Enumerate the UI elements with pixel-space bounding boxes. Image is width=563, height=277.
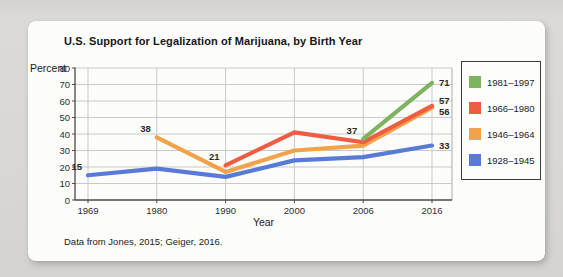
y-tick-label: 20 bbox=[59, 162, 70, 173]
y-axis-title: Percent bbox=[30, 62, 66, 74]
y-tick-label: 40 bbox=[59, 129, 70, 140]
line-chart: 0102030405060708019691980199020002006201… bbox=[28, 56, 458, 228]
data-label: 21 bbox=[209, 151, 220, 162]
chart-title: U.S. Support for Legalization of Marijua… bbox=[64, 35, 362, 47]
legend-label: 1981–1997 bbox=[487, 77, 535, 88]
x-tick-label: 1990 bbox=[215, 205, 236, 216]
y-tick-label: 30 bbox=[59, 145, 70, 156]
series-line-1966–1980 bbox=[226, 106, 432, 165]
legend-item: 1981–1997 bbox=[469, 69, 534, 95]
scanned-page: { "window": { "page_background": "#d8d7d… bbox=[0, 0, 563, 277]
legend-label: 1928–1945 bbox=[487, 155, 535, 166]
data-label: 57 bbox=[439, 95, 450, 106]
legend-item: 1928–1945 bbox=[469, 147, 534, 173]
legend-swatch-icon bbox=[469, 154, 481, 166]
figure-card: U.S. Support for Legalization of Marijua… bbox=[28, 21, 545, 261]
data-label: 56 bbox=[439, 106, 450, 117]
data-label: 71 bbox=[439, 77, 450, 88]
source-note: Data from Jones, 2015; Geiger, 2016. bbox=[64, 236, 222, 247]
x-axis-title: Year bbox=[253, 216, 275, 228]
data-label: 33 bbox=[439, 140, 450, 151]
x-tick-label: 2006 bbox=[353, 205, 374, 216]
x-tick-label: 2016 bbox=[421, 205, 442, 216]
y-tick-label: 0 bbox=[65, 195, 70, 206]
legend-label: 1966–1980 bbox=[487, 103, 535, 114]
legend-swatch-icon bbox=[469, 102, 481, 114]
x-tick-label: 1969 bbox=[77, 205, 98, 216]
y-tick-label: 10 bbox=[59, 178, 70, 189]
data-label: 38 bbox=[140, 123, 151, 134]
y-tick-label: 60 bbox=[59, 96, 70, 107]
y-tick-label: 50 bbox=[59, 112, 70, 123]
legend-item: 1966–1980 bbox=[469, 95, 534, 121]
x-tick-label: 2000 bbox=[284, 205, 305, 216]
legend-swatch-icon bbox=[469, 76, 481, 88]
legend-swatch-icon bbox=[469, 128, 481, 140]
data-label: 37 bbox=[347, 125, 358, 136]
legend-label: 1946–1964 bbox=[487, 129, 535, 140]
legend-item: 1946–1964 bbox=[469, 121, 534, 147]
data-label: 15 bbox=[71, 161, 82, 172]
chart-legend: 1981–19971966–19801946–19641928–1945 bbox=[461, 61, 541, 180]
x-tick-label: 1980 bbox=[146, 205, 167, 216]
y-tick-label: 70 bbox=[59, 79, 70, 90]
